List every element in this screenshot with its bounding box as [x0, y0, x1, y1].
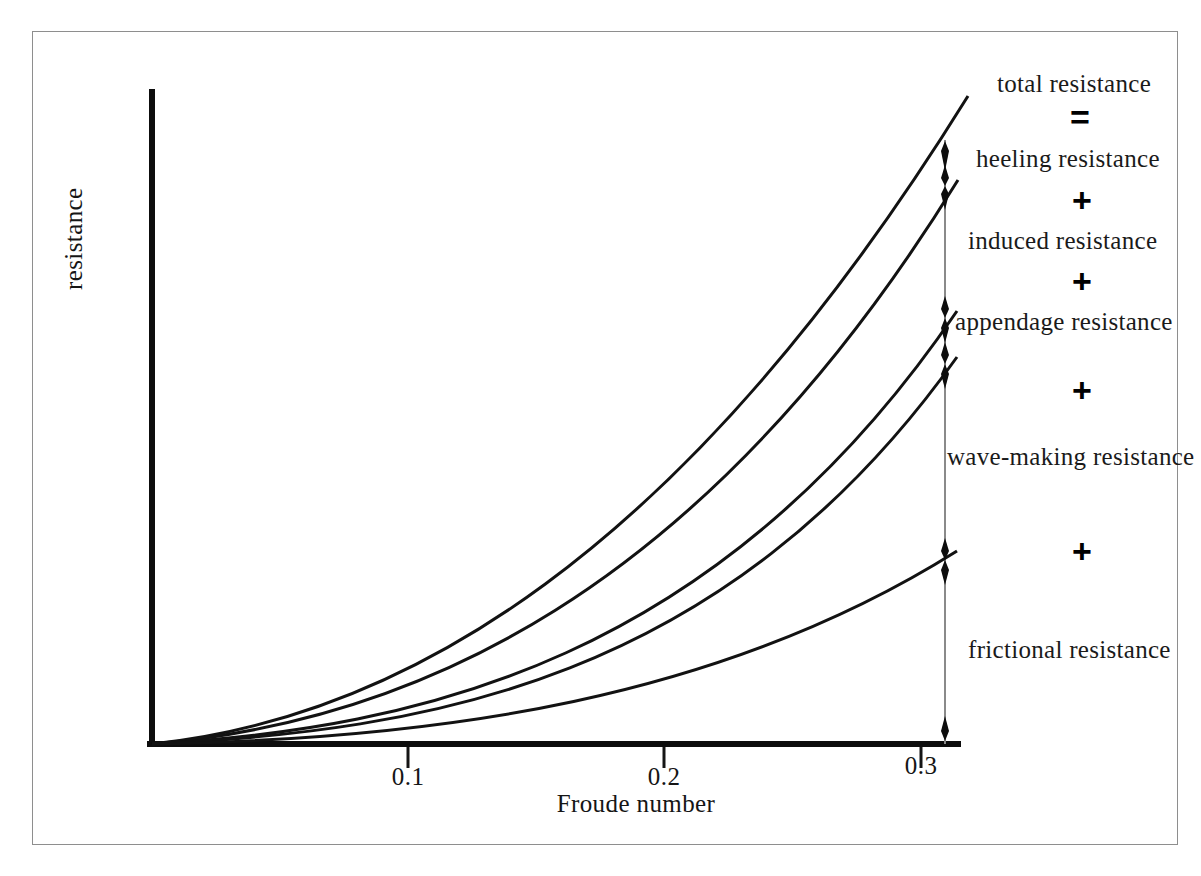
plus-symbol-3: + — [1072, 373, 1092, 407]
label-induced-resistance: induced resistance — [968, 227, 1157, 255]
y-axis-title: resistance — [60, 187, 88, 290]
curve-appendage-boundary — [152, 357, 957, 744]
arrow-marker-frictional-bottom — [941, 716, 949, 741]
x-axis-title: Froude number — [466, 790, 806, 818]
x-tick-label-1: 0.1 — [363, 763, 453, 791]
equals-symbol: = — [1070, 100, 1090, 134]
curve-total-resistance — [152, 96, 968, 744]
label-frictional-resistance: frictional resistance — [968, 636, 1171, 664]
plus-symbol-4: + — [1072, 534, 1092, 568]
label-heeling-resistance: heeling resistance — [976, 145, 1160, 173]
x-tick-label-3: 0.3 — [876, 752, 966, 780]
plus-symbol-2: + — [1072, 264, 1092, 298]
resistance-curves-plot — [0, 0, 1201, 876]
curve-induced-boundary — [152, 311, 957, 744]
arrow-marker-appendage — [941, 342, 949, 389]
x-tick-label-2: 0.2 — [619, 763, 709, 791]
label-wave-making-resistance: wave-making resistance — [947, 443, 1194, 471]
curve-heeling-boundary — [152, 180, 958, 744]
label-appendage-resistance: appendage resistance — [955, 308, 1173, 336]
curve-frictional-resistance — [152, 551, 957, 744]
plus-symbol-1: + — [1072, 183, 1092, 217]
label-total-resistance: total resistance — [997, 70, 1151, 98]
arrow-marker-induced — [941, 296, 949, 343]
figure-page: 0.1 0.2 0.3 Froude number resistance tot… — [0, 0, 1201, 876]
